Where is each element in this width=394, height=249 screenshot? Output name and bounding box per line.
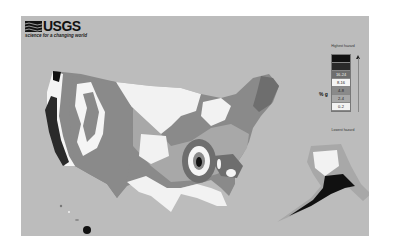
- hazard-scale-line: [358, 58, 359, 112]
- us-hazard-map: [21, 16, 369, 236]
- usgs-logo[interactable]: USGS science for a changing world: [25, 20, 87, 38]
- hazard-legend: Highest hazard 16-24 8-16 4-8 2-4 0-2 % …: [308, 44, 364, 48]
- legend-bottom-label: Lowest hazard: [328, 128, 358, 132]
- legend-bin-2: 16-24: [332, 71, 350, 79]
- usgs-wave-icon: [25, 21, 42, 32]
- legend-top-label: Highest hazard: [328, 44, 358, 48]
- legend-bin-3: 8-16: [332, 79, 350, 87]
- logo-text: USGS: [43, 20, 81, 32]
- legend-bin-0: [332, 55, 350, 63]
- legend-bin-6: 0-2: [332, 103, 350, 111]
- legend-units: % g: [319, 91, 328, 97]
- legend-bins: 16-24 8-16 4-8 2-4 0-2: [331, 54, 351, 112]
- legend-bin-5: 2-4: [332, 95, 350, 103]
- tagline: science for a changing world: [25, 33, 87, 38]
- legend-bin-1: [332, 63, 350, 71]
- legend-bin-4: 4-8: [332, 87, 350, 95]
- hazard-map-frame: USGS science for a changing world Highes…: [21, 16, 369, 236]
